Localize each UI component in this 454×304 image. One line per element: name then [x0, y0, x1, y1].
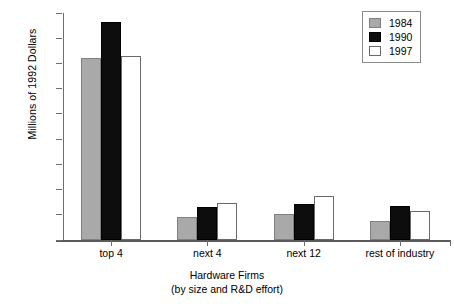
y-tick-mark [56, 214, 62, 215]
legend-item-1984: 1984 [369, 16, 412, 30]
bar-group-bars [177, 13, 237, 240]
bar-1990 [294, 204, 314, 240]
y-tick-mark [56, 164, 62, 165]
x-axis-line [56, 240, 450, 242]
legend-item-1990: 1990 [369, 30, 412, 44]
bar-1990 [390, 206, 410, 240]
legend-item-1997: 1997 [369, 44, 412, 58]
x-tick-mark-end [450, 240, 451, 246]
x-axis-title-line-2: (by size and R&D effort) [0, 282, 454, 296]
x-axis-title-line-1: Hardware Firms [190, 269, 265, 281]
legend-label: 1997 [389, 45, 412, 57]
bar-1997 [121, 56, 141, 240]
x-tick-label: rest of industry [335, 247, 454, 259]
bar-1997 [314, 196, 334, 240]
bar-1997 [217, 203, 237, 240]
legend-label: 1984 [389, 17, 412, 29]
bar-chart: Millions of 1992 Dollars 010002000300040… [0, 0, 454, 304]
bar-1984 [81, 58, 101, 240]
y-tick-mark [56, 13, 62, 14]
x-tick-mark [400, 240, 401, 246]
bar-group [274, 13, 334, 240]
y-tick-mark [56, 38, 62, 39]
y-tick-mark [56, 189, 62, 190]
bar-1984 [274, 214, 294, 240]
x-tick-mark [111, 240, 112, 246]
legend-swatch-icon [369, 18, 381, 28]
y-tick-mark [56, 63, 62, 64]
y-tick-mark [56, 240, 62, 241]
legend: 198419901997 [362, 11, 421, 63]
legend-label: 1990 [389, 31, 412, 43]
y-axis-title: Millions of 1992 Dollars [26, 4, 38, 164]
x-tick-mark [304, 240, 305, 246]
bar-group [177, 13, 237, 240]
legend-swatch-icon [369, 46, 381, 56]
bar-1984 [370, 221, 390, 240]
y-tick-mark [56, 113, 62, 114]
bar-group-bars [274, 13, 334, 240]
bar-1990 [197, 207, 217, 240]
bar-1984 [177, 217, 197, 240]
x-axis-title: Hardware Firms (by size and R&D effort) [0, 268, 454, 296]
bar-group [81, 13, 141, 240]
x-tick-mark [207, 240, 208, 246]
legend-swatch-icon [369, 32, 381, 42]
bar-1990 [101, 22, 121, 240]
y-tick-mark [56, 88, 62, 89]
bar-1997 [410, 211, 430, 241]
bar-group-bars [81, 13, 141, 240]
y-tick-mark [56, 139, 62, 140]
